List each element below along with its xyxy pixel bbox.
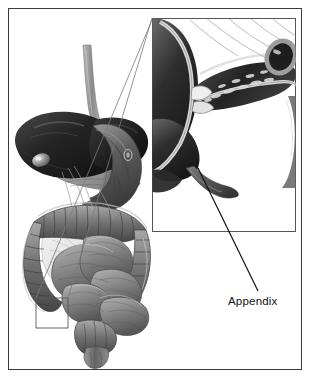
inset-panel (151, 18, 304, 232)
organ-esophagus (83, 45, 101, 126)
appendix-label: Appendix (228, 295, 278, 307)
main-anatomy-group (15, 18, 152, 368)
anatomy-illustration (0, 0, 312, 384)
organ-rectum (75, 320, 117, 368)
figure-root: Appendix (0, 0, 312, 384)
